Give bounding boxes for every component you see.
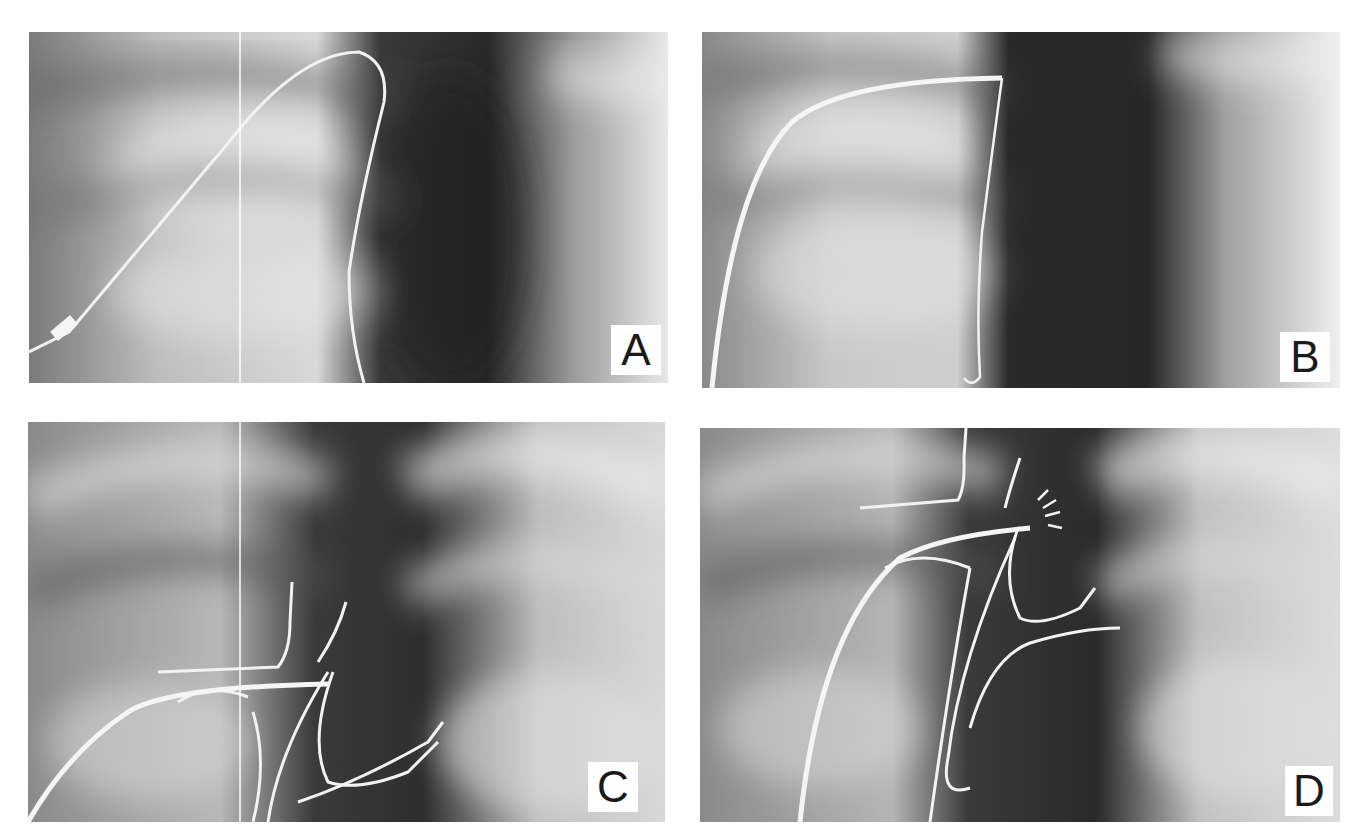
panel-label-text-a: A [621, 328, 650, 372]
xray-image-b [702, 32, 1340, 388]
radiograph-panel-b: B [702, 32, 1340, 388]
radiograph-panel-c: C [28, 422, 665, 822]
panel-label-text-d: D [1293, 769, 1325, 813]
panel-label-c: C [588, 762, 638, 812]
panel-label-a: A [611, 325, 661, 375]
xray-image-d [700, 428, 1340, 822]
radiograph-panel-d: D [700, 428, 1340, 822]
panel-label-d: D [1285, 766, 1333, 816]
panel-label-b: B [1280, 332, 1330, 382]
xray-image-c [28, 422, 665, 822]
radiograph-panel-a: A [29, 32, 668, 383]
panel-label-text-c: C [597, 765, 629, 809]
panel-label-text-b: B [1290, 335, 1319, 379]
xray-image-a [29, 32, 668, 383]
